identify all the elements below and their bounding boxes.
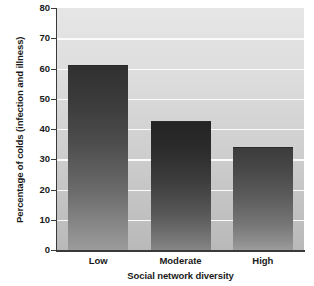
x-axis-line: [56, 250, 305, 252]
y-axis-tick-label: 50: [22, 94, 50, 104]
y-axis-tick-label: 80: [22, 3, 50, 13]
y-axis-tick-labels: 01020304050607080: [22, 0, 50, 286]
y-axis-tick-label: 60: [22, 64, 50, 74]
y-axis-tick-label: 30: [22, 155, 50, 165]
bar: [233, 147, 293, 250]
y-axis-tick-label: 20: [22, 185, 50, 195]
y-axis-tick-label: 70: [22, 34, 50, 44]
x-axis-title: Social network diversity: [57, 271, 304, 281]
bar-chart: Percentage of colds (infection and illne…: [0, 0, 314, 286]
bar: [68, 65, 128, 250]
x-axis-tick-label: High: [252, 256, 273, 266]
y-axis-tick-label: 10: [22, 215, 50, 225]
gridline: [57, 38, 304, 39]
y-axis-tick-label: 40: [22, 124, 50, 134]
x-axis-tick-label: Low: [89, 256, 108, 266]
bar: [151, 121, 211, 250]
y-axis-line: [56, 8, 57, 251]
plot-area: [57, 8, 304, 250]
x-axis-tick-label: Moderate: [159, 256, 201, 266]
y-axis-tick-label: 0: [22, 245, 50, 255]
